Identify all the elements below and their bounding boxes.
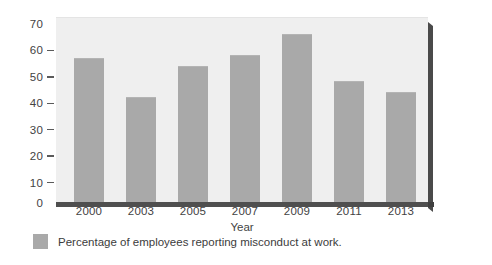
y-axis-tick-label: 50 — [30, 70, 43, 84]
plot-3d-shadow — [428, 22, 433, 212]
bar-2007 — [230, 55, 260, 203]
y-axis-tick-0: 0 — [36, 196, 56, 210]
y-axis-tick-label: 40 — [30, 96, 43, 110]
y-axis-tick-mark — [47, 182, 54, 184]
y-axis-tick-mark — [47, 155, 54, 157]
y-axis-tick-10: 10 — [30, 176, 56, 190]
x-axis-tick-label: 2000 — [66, 205, 112, 217]
x-axis-tick-label: 2009 — [274, 205, 320, 217]
x-axis-tick-label: 2013 — [378, 205, 424, 217]
x-axis-tick-label: 2005 — [170, 205, 216, 217]
chart-legend: Percentage of employees reporting miscon… — [33, 234, 342, 249]
y-axis-tick-30: 30 — [30, 123, 56, 137]
y-axis-tick-label: 0 — [36, 196, 43, 210]
y-axis-tick-60: 60 — [30, 43, 56, 57]
y-axis: 70 60 50 40 30 20 10 0 — [0, 17, 56, 203]
y-axis-tick-mark — [47, 129, 54, 131]
y-axis-tick-50: 50 — [30, 70, 56, 84]
bar-2013 — [386, 92, 416, 203]
x-axis-baseline-edge — [428, 202, 434, 207]
plot-wrapper — [56, 17, 428, 203]
bar-2003 — [126, 97, 156, 203]
y-axis-tick-40: 40 — [30, 96, 56, 110]
y-axis-tick-20: 20 — [30, 149, 56, 163]
legend-label: Percentage of employees reporting miscon… — [58, 236, 342, 248]
legend-color-swatch — [33, 234, 48, 249]
x-axis-title: Year — [56, 221, 428, 233]
y-axis-tick-label: 20 — [30, 149, 43, 163]
bar-2005 — [178, 66, 208, 203]
y-axis-tick-mark — [47, 76, 54, 78]
x-axis: 2000 2003 2005 2007 2009 2011 2013 — [56, 205, 428, 221]
x-axis-tick-label: 2003 — [118, 205, 164, 217]
bar-2011 — [334, 81, 364, 203]
x-axis-tick-label: 2007 — [222, 205, 268, 217]
y-axis-tick-label: 60 — [30, 43, 43, 57]
y-axis-tick-mark — [47, 50, 54, 52]
y-axis-tick-label: 10 — [30, 176, 43, 190]
y-axis-tick-70: 70 — [30, 17, 56, 31]
y-axis-tick-label: 30 — [30, 123, 43, 137]
y-axis-tick-mark — [47, 103, 54, 105]
bar-2009 — [282, 34, 312, 203]
y-axis-tick-label: 70 — [30, 17, 43, 31]
x-axis-tick-label: 2011 — [326, 205, 372, 217]
bar-2000 — [74, 58, 104, 203]
bar-chart-figure: 70 60 50 40 30 20 10 0 — [0, 0, 492, 265]
plot-area — [56, 17, 428, 203]
